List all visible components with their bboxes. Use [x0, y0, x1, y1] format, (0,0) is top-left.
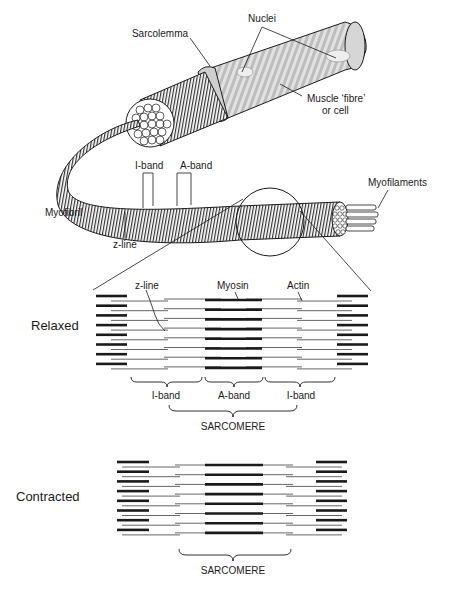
a-band-bracket	[177, 173, 191, 206]
myofibril-illustration	[57, 120, 378, 256]
actin-pointer	[298, 292, 302, 301]
contracted-sarcomere	[117, 462, 347, 535]
myofibril-body	[57, 120, 340, 243]
label-i-band-top: I-band	[135, 160, 163, 171]
label-relaxed: Relaxed	[31, 318, 79, 333]
label-a-band: A-band	[218, 390, 250, 401]
label-a-band-top: A-band	[180, 160, 212, 171]
label-i-band-left: I-band	[152, 390, 180, 401]
label-contracted: Contracted	[16, 489, 80, 504]
label-z-line-top: z-line	[113, 239, 137, 250]
label-myofilaments: Myofilaments	[368, 177, 427, 188]
nucleus	[326, 50, 350, 62]
fibre-end-cap	[345, 22, 365, 70]
muscle-structure-diagram: Nuclei Sarcolemma Muscle ‘fibre’ or cell…	[0, 0, 453, 590]
muscle-fibre-illustration	[126, 22, 366, 147]
sarcomere-brace-relaxed	[169, 405, 297, 417]
label-sarcomere-contracted: SARCOMERE	[201, 565, 266, 576]
myofilaments-rods	[346, 205, 378, 231]
label-nuclei: Nuclei	[248, 13, 276, 24]
label-sarcomere-relaxed: SARCOMERE	[201, 421, 266, 432]
label-myosin: Myosin	[217, 280, 249, 291]
label-muscle-fibre-2: or cell	[322, 105, 349, 116]
label-i-band-right: I-band	[287, 390, 315, 401]
sarcomere-brace-contracted	[179, 549, 291, 561]
relaxed-sarcomere	[96, 296, 368, 369]
label-actin: Actin	[287, 280, 309, 291]
label-myofibril: Myofibril	[45, 207, 82, 218]
label-z-line-relaxed: z-line	[135, 280, 159, 291]
i-band-brace-left	[131, 377, 202, 387]
a-band-brace	[205, 377, 263, 387]
label-sarcolemma: Sarcolemma	[132, 28, 189, 39]
label-muscle-fibre-1: Muscle ‘fibre’	[307, 93, 365, 104]
i-band-bracket	[143, 173, 153, 208]
i-band-brace-right	[265, 377, 335, 387]
nucleus	[237, 67, 253, 77]
